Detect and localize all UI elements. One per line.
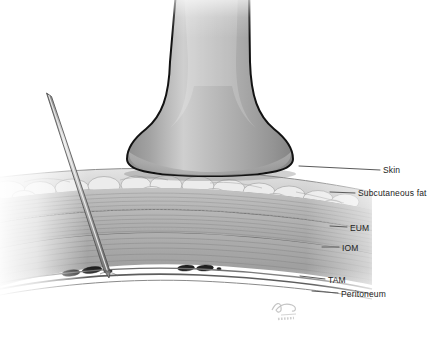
label-internal-oblique-muscle: IOM <box>342 243 359 253</box>
label-peritoneum: Peritoneum <box>341 289 386 299</box>
label-external-oblique-muscle: EUM <box>350 223 369 233</box>
label-transversus-abdominis-muscle: TAM <box>328 275 346 285</box>
ultrasound-probe <box>124 0 296 181</box>
label-subcutaneous-fat: Subcutaneous fat <box>358 188 427 198</box>
label-skin: Skin <box>383 165 400 175</box>
